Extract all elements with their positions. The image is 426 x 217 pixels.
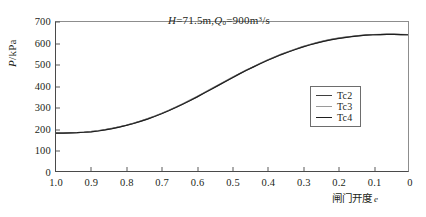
x-axis-tick-label: 0.6 [191, 171, 205, 189]
x-axis-tick-label: 1.0 [49, 171, 63, 189]
x-axis-tick-label: 0.5 [226, 171, 240, 189]
y-axis-tick-mark [56, 43, 60, 44]
x-axis-tick-mark [162, 167, 163, 171]
x-axis-title-symbol: e [372, 194, 378, 204]
x-axis-tick-mark [233, 167, 234, 171]
chart-legend: Tc2Tc3Tc4 [310, 86, 361, 127]
y-axis-tick-mark [56, 65, 60, 66]
x-axis-tick-label: 0.3 [297, 171, 311, 189]
y-axis-tick-mark [56, 151, 60, 152]
x-axis-tick-mark [197, 167, 198, 171]
chart-figure: P/kPa 0100200300400500600700 1.00.90.80.… [0, 0, 426, 217]
x-axis-tick-label: 0 [407, 171, 412, 189]
x-axis-tick-mark [303, 167, 304, 171]
x-axis-title-text: 闸门开度 [332, 192, 372, 204]
legend-item: Tc3 [316, 101, 352, 112]
x-axis-tick-mark [339, 167, 340, 171]
x-axis-tick-label: 0.7 [155, 171, 169, 189]
x-axis-tick-label: 0.9 [85, 171, 99, 189]
x-axis-tick-mark [374, 167, 375, 171]
y-axis-tick-label: 300 [35, 103, 56, 114]
legend-item: Tc4 [316, 112, 352, 123]
x-axis-tick-mark [91, 167, 92, 171]
y-axis-tick-label: 100 [35, 146, 56, 157]
y-axis-tick-mark [56, 22, 60, 23]
x-axis-tick-label: 0.8 [120, 171, 134, 189]
chart-annotation: H=71.5m,Q0=900m3/s [168, 14, 270, 27]
annotation-q-value: 900m [233, 14, 259, 26]
legend-item-label: Tc4 [337, 113, 352, 123]
legend-swatch-icon [316, 106, 332, 107]
x-axis-tick-label: 0.1 [368, 171, 382, 189]
y-axis-title-symbol: P [6, 60, 18, 67]
legend-item: Tc2 [316, 90, 352, 101]
legend-swatch-icon [316, 95, 332, 96]
annotation-h-value: 71.5m, [183, 14, 215, 26]
y-axis-tick-label: 200 [35, 125, 56, 136]
y-axis-title: P/kPa [6, 51, 18, 67]
annotation-h-symbol: H [168, 14, 176, 26]
x-axis-tick-mark [126, 167, 127, 171]
x-axis-tick-label: 0.4 [262, 171, 276, 189]
y-axis-tick-mark [56, 108, 60, 109]
y-axis-tick-label: 700 [35, 17, 56, 28]
legend-item-label: Tc3 [337, 102, 352, 112]
legend-item-label: Tc2 [337, 91, 352, 101]
legend-swatch-icon [316, 117, 332, 118]
y-axis-title-unit: /kPa [6, 39, 18, 60]
y-axis-tick-label: 600 [35, 38, 56, 49]
annotation-q-per: /s [262, 14, 270, 26]
y-axis-tick-mark [56, 86, 60, 87]
x-axis-title: 闸门开度e [332, 190, 378, 205]
y-axis-tick-label: 500 [35, 60, 56, 71]
x-axis-tick-mark [268, 167, 269, 171]
y-axis-tick-label: 400 [35, 81, 56, 92]
x-axis-tick-label: 0.2 [332, 171, 346, 189]
y-axis-tick-mark [56, 129, 60, 130]
